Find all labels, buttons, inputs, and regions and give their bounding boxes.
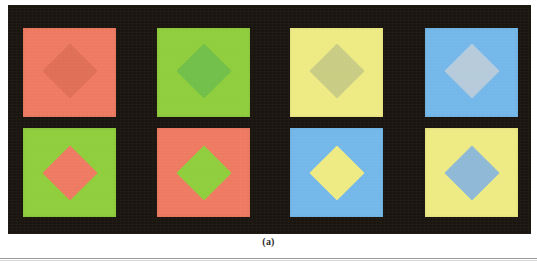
swatch-diamond bbox=[309, 145, 364, 200]
swatch-diamond bbox=[309, 43, 364, 98]
caption-area: (a) bbox=[0, 234, 537, 263]
color-swatch bbox=[157, 28, 250, 117]
color-swatch bbox=[157, 128, 250, 217]
horizontal-rule bbox=[0, 258, 537, 259]
color-swatch bbox=[290, 128, 383, 217]
swatch-diamond bbox=[444, 145, 499, 200]
color-swatch-panel bbox=[8, 5, 531, 234]
swatch-diamond bbox=[42, 145, 97, 200]
color-swatch bbox=[23, 28, 116, 117]
horizontal-rule-secondary bbox=[0, 260, 537, 261]
swatch-diamond bbox=[176, 145, 231, 200]
figure-caption: (a) bbox=[0, 236, 537, 247]
swatch-diamond bbox=[176, 43, 231, 98]
swatch-diamond bbox=[42, 43, 97, 98]
swatch-diamond bbox=[444, 43, 499, 98]
color-swatch bbox=[425, 128, 518, 217]
color-swatch bbox=[425, 28, 518, 117]
color-swatch bbox=[23, 128, 116, 217]
swatch-grid bbox=[8, 5, 531, 234]
color-swatch bbox=[290, 28, 383, 117]
figure-root: (a) bbox=[0, 0, 537, 263]
